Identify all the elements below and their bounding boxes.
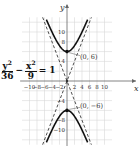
x-axis-arrow-icon [132, 79, 136, 83]
origin-point [66, 80, 68, 82]
x-tick-label: 6 [88, 84, 92, 90]
y-axis-label: y [59, 3, 65, 12]
vertex-label: (0, −6) [80, 102, 103, 110]
y-tick-label: −4 [57, 98, 66, 104]
x-tick-label: 4 [80, 84, 84, 90]
eq-den2: 9 [28, 72, 34, 81]
y-tick-label: 4 [62, 58, 66, 64]
eq-rhs: = 1 [39, 65, 56, 75]
eq-operator: − [16, 65, 24, 75]
y-tick-label: −10 [53, 127, 65, 133]
x-tick-label: 8 [95, 84, 99, 90]
x-tick-label: 10 [101, 84, 108, 90]
vertex-point [65, 50, 69, 54]
x-axis-label: x [134, 84, 139, 93]
y-axis-arrow-icon [65, 4, 69, 8]
fraction-y: y2 36 [1, 58, 14, 81]
y-tick-label: 10 [58, 29, 65, 35]
x-tick-label: 2 [73, 84, 77, 90]
x-tick-label: −2 [55, 84, 63, 90]
fraction-x: x2 9 [25, 58, 37, 81]
vertex-label: (0, 6) [80, 53, 98, 61]
eq-den1: 36 [1, 72, 14, 81]
vertex-point [65, 109, 69, 113]
equation-label: y2 36 − x2 9 = 1 [1, 58, 56, 81]
y-tick-label: 8 [62, 39, 66, 45]
